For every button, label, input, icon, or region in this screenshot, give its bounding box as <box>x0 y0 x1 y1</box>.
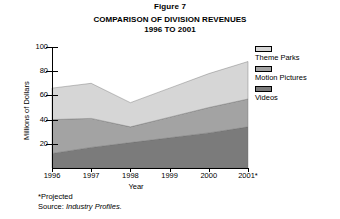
y-tick-inner-20 <box>53 144 58 145</box>
legend-label: Theme Parks <box>255 53 339 62</box>
y-tick-label-20: 20 <box>26 140 48 147</box>
y-tick-inner-40 <box>53 120 58 121</box>
legend-swatch-icon <box>255 66 272 72</box>
y-axis-line <box>52 47 53 169</box>
legend-item-motion-pictures[interactable]: Motion Pictures <box>255 66 339 82</box>
x-tick-label-1996: 1996 <box>35 171 69 180</box>
y-tick-inner-60 <box>53 95 58 96</box>
y-axis-title: Millions of Dollars <box>22 81 31 140</box>
x-tick-label-1997: 1997 <box>74 171 108 180</box>
footnote-source-name: Industry Profiles. <box>66 202 122 211</box>
y-tick-inner-100 <box>53 47 58 48</box>
x-tick-label-2000: 2000 <box>192 171 226 180</box>
legend-label: Motion Pictures <box>255 73 339 82</box>
footnote-source: Source: Industry Profiles. <box>38 202 122 212</box>
legend-swatch-icon <box>255 46 272 52</box>
legend-swatch-icon <box>255 86 272 92</box>
figure-container: Figure 7 COMPARISON OF DIVISION REVENUES… <box>0 0 340 219</box>
x-tick-label-2001: 2001* <box>231 171 265 180</box>
y-tick-label-100: 100 <box>26 43 48 50</box>
y-tick-inner-80 <box>53 71 58 72</box>
y-tick-label-80: 80 <box>26 67 48 74</box>
footnote-source-prefix: Source: <box>38 202 66 211</box>
legend-item-theme-parks[interactable]: Theme Parks <box>255 46 339 62</box>
x-tick-label-1998: 1998 <box>113 171 147 180</box>
x-axis-line <box>52 168 248 169</box>
x-axis-title: Year <box>0 182 272 191</box>
legend-label: Videos <box>255 93 339 102</box>
x-tick-label-1999: 1999 <box>153 171 187 180</box>
chart-footnotes: *Projected Source: Industry Profiles. <box>38 192 122 211</box>
footnote-projected: *Projected <box>38 192 122 202</box>
legend-item-videos[interactable]: Videos <box>255 86 339 102</box>
chart-legend: Theme ParksMotion PicturesVideos <box>255 46 339 106</box>
